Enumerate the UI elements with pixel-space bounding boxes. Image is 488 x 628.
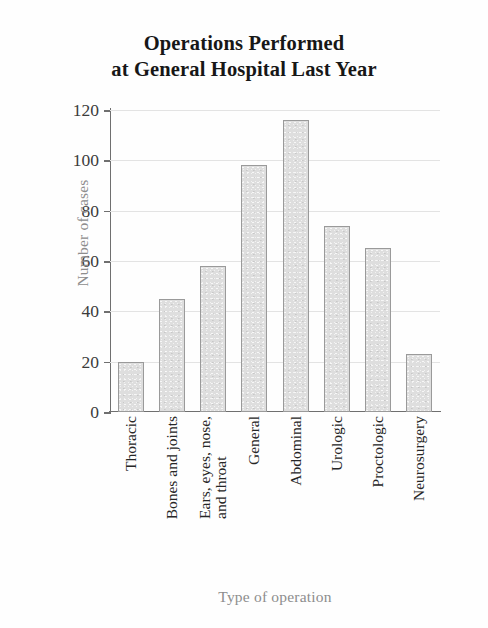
x-axis-label-line: General (245, 416, 262, 465)
tick-mark-100 (104, 160, 110, 162)
x-axis-label-text: Proctologic (370, 416, 386, 487)
x-axis-label-3: Ears, eyes, nose,and throat (193, 416, 234, 566)
x-axis-label-text: Neurosurgery (411, 416, 427, 501)
tick-mark-0 (104, 412, 110, 414)
x-axis-label-line: Thoracic (122, 416, 139, 471)
y-tick-label-120: 120 (73, 100, 99, 121)
x-axis-label-line: Abdominal (287, 416, 304, 486)
y-tick-label-0: 0 (90, 402, 99, 423)
x-axis-label-line: Neurosurgery (410, 416, 427, 501)
chart-title-line-1: Operations Performed (0, 30, 488, 56)
x-axis-label-4: General (234, 416, 275, 566)
bar (324, 226, 350, 412)
chart-title: Operations Performed at General Hospital… (0, 30, 488, 82)
tick-mark-80 (104, 211, 110, 213)
y-tick-label-20: 20 (82, 351, 100, 372)
x-axis-label-2: Bones and joints (151, 416, 192, 566)
x-axis-label-text: Ears, eyes, nose,and throat (197, 416, 229, 519)
x-axis-label-text: Abdominal (288, 416, 304, 486)
y-axis-title: Number of cases (74, 143, 92, 323)
x-axis-label-text: Bones and joints (164, 416, 180, 519)
x-axis-title: Type of operation (110, 588, 440, 606)
bar (406, 354, 432, 412)
x-axis-label-line: Ears, eyes, nose, (197, 416, 213, 519)
x-axis-label-text: General (246, 416, 262, 465)
bar (365, 248, 391, 412)
x-axis-label-8: Neurosurgery (399, 416, 440, 566)
x-axis-label-1: Thoracic (110, 416, 151, 566)
x-axis-label-7: Proctologic (358, 416, 399, 566)
bar (200, 266, 226, 412)
x-axis-category-labels: ThoracicBones and jointsEars, eyes, nose… (110, 416, 440, 566)
bar (283, 120, 309, 412)
tick-mark-40 (104, 311, 110, 313)
x-axis-label-line: and throat (213, 416, 229, 519)
tick-mark-60 (104, 261, 110, 263)
chart-title-line-2: at General Hospital Last Year (0, 56, 488, 82)
plot-area: 020406080100120 (110, 110, 440, 412)
tick-mark-20 (104, 362, 110, 364)
x-axis-label-line: Bones and joints (163, 416, 180, 519)
x-axis-label-line: Proctologic (369, 416, 386, 487)
x-axis-label-text: Thoracic (123, 416, 139, 471)
x-axis-label-5: Abdominal (275, 416, 316, 566)
x-axis-label-6: Urologic (316, 416, 357, 566)
gridline-80 (110, 211, 440, 212)
x-axis-label-line: Urologic (328, 416, 345, 471)
bar (159, 299, 185, 412)
x-axis-label-text: Urologic (329, 416, 345, 471)
bar-chart-figure: Operations Performed at General Hospital… (0, 0, 488, 628)
bar (118, 362, 144, 412)
gridline-100 (110, 160, 440, 161)
gridline-120 (110, 110, 440, 111)
bar (241, 165, 267, 412)
tick-mark-120 (104, 110, 110, 112)
